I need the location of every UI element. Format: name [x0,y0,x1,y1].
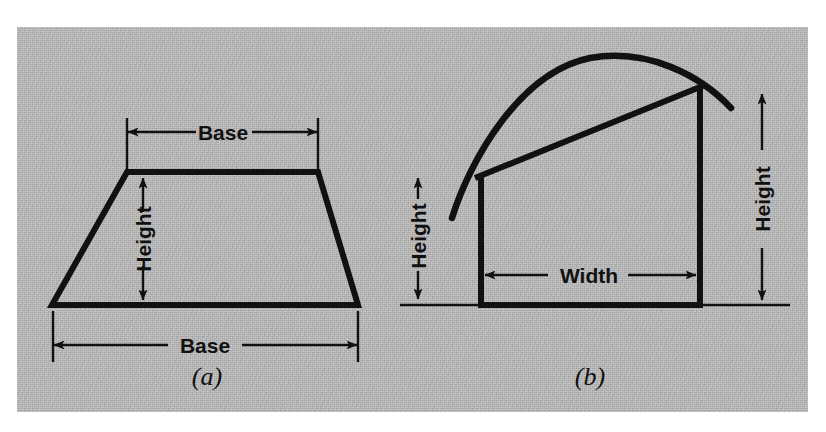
chord-line [475,85,705,178]
height-a-label: Height [132,206,155,271]
bottom-base-label: Base [180,334,230,357]
panel-b-caption: (b) [575,362,605,391]
figure-root: Base Height Base (a) Height [0,0,826,432]
height-b-right-label: Height [751,166,774,231]
top-base-label: Base [198,121,248,144]
height-b-left-label: Height [407,203,430,268]
panel-b-group: Height Width Height (b) [400,56,790,391]
curve-shape [452,56,731,218]
figure-drawing: Base Height Base (a) Height [0,0,826,432]
panel-a-group: Base Height Base (a) [52,118,358,391]
trapezoid-shape [52,172,358,305]
width-label: Width [560,264,618,287]
panel-a-caption: (a) [192,362,222,391]
